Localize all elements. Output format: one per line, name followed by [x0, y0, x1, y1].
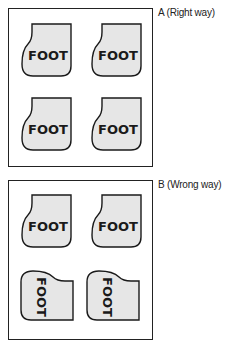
foot-shape-rotated-icon: FOOT	[19, 268, 75, 324]
foot-text: FOOT	[98, 122, 138, 137]
foot-tile-b3-rotated: FOOT	[19, 268, 75, 324]
foot-shape-icon: FOOT	[89, 22, 145, 78]
foot-text: FOOT	[98, 48, 138, 63]
foot-text: FOOT	[98, 219, 138, 234]
foot-shape-icon: FOOT	[89, 96, 145, 152]
foot-shape-icon: FOOT	[19, 22, 75, 78]
foot-tile-a1: FOOT	[19, 22, 75, 78]
panel-a-label: A (Right way)	[158, 7, 215, 18]
foot-text: FOOT	[28, 48, 68, 63]
foot-tile-b4-rotated: FOOT	[85, 268, 141, 324]
foot-shape-icon: FOOT	[19, 96, 75, 152]
foot-text: FOOT	[34, 277, 49, 317]
foot-tile-b1: FOOT	[19, 193, 75, 249]
foot-shape-icon: FOOT	[89, 193, 145, 249]
foot-tile-a2: FOOT	[89, 22, 145, 78]
foot-tile-a3: FOOT	[19, 96, 75, 152]
foot-text: FOOT	[100, 277, 115, 317]
panel-b-label: B (Wrong way)	[158, 179, 221, 190]
foot-shape-icon: FOOT	[19, 193, 75, 249]
foot-text: FOOT	[28, 219, 68, 234]
foot-text: FOOT	[28, 122, 68, 137]
foot-tile-a4: FOOT	[89, 96, 145, 152]
foot-tile-b2: FOOT	[89, 193, 145, 249]
foot-shape-rotated-icon: FOOT	[85, 268, 141, 324]
